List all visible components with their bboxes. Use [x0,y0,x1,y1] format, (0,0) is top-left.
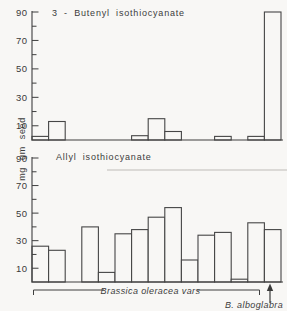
tick-label: 90 [16,7,28,18]
bar [132,136,149,140]
alboglabra-label: B. alboglabra [225,300,283,310]
figure-canvas: 1030507090 3 - Butenyl isothiocyanate 10… [0,0,287,311]
bar [148,217,165,282]
tick-label: 30 [16,92,28,103]
alboglabra-annotation: B. alboglabra [225,284,283,311]
bar [49,250,66,282]
bar [82,227,99,282]
tick-label: 70 [16,35,28,46]
top-chart: 1030507090 3 - Butenyl isothiocyanate [16,7,283,141]
top-chart-title: 3 - Butenyl isothiocyanate [52,8,185,18]
bar [264,230,281,282]
bar [32,246,49,282]
bar [198,235,215,282]
top-chart-bars [32,12,281,140]
brassica-group-label: Brassica oleracea vars [101,286,201,296]
bar [132,230,149,282]
bar [115,234,132,282]
bar [165,132,182,141]
bar [215,232,232,282]
isothiocyanate-figure: 1030507090 3 - Butenyl isothiocyanate 10… [0,0,287,311]
bracket-left-segment [34,290,105,295]
bottom-chart-title: Allyl isothiocyanate [56,152,152,162]
bar [49,122,66,141]
tick-label: 30 [16,235,28,246]
bar [148,119,165,140]
bracket-right-segment [197,290,260,295]
bar [165,208,182,282]
tick-label: 50 [16,208,28,219]
bar [98,272,115,282]
x-group-bracket: Brassica oleracea vars [34,286,260,296]
up-arrowhead-icon [267,284,273,292]
bar [248,223,265,282]
bottom-chart-bars [32,208,281,282]
tick-label: 10 [16,263,28,274]
bar [264,12,281,140]
tick-label: 50 [16,63,28,74]
y-axis-label: mg gm seed [17,117,27,181]
bottom-chart: 1030507090 Allyl isothiocyanate [16,152,283,282]
bar [181,260,198,282]
